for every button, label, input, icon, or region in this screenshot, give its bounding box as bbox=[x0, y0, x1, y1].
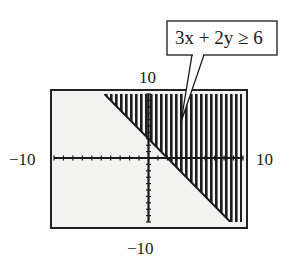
y-axis-ticks bbox=[146, 94, 151, 222]
graphing-calculator-plot: −10 10 10 −10 3x + 2y ≥ 6 bbox=[0, 0, 292, 269]
label-xmax: 10 bbox=[256, 150, 273, 169]
label-ymin: −10 bbox=[127, 239, 154, 258]
label-ymax: 10 bbox=[139, 68, 156, 87]
label-xmin: −10 bbox=[9, 150, 36, 169]
callout-label: 3x + 2y ≥ 6 bbox=[175, 27, 263, 48]
